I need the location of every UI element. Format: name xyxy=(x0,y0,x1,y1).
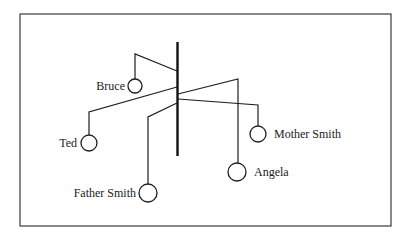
label-ted: Ted xyxy=(59,136,77,150)
circle-angela xyxy=(228,163,246,181)
label-father-smith: Father Smith xyxy=(74,186,136,200)
arm-angela xyxy=(178,79,238,163)
arm-bruce xyxy=(135,54,177,79)
label-mother-smith: Mother Smith xyxy=(274,127,341,141)
member-father-smith: Father Smith xyxy=(74,184,157,202)
member-angela: Angela xyxy=(228,163,289,181)
label-angela: Angela xyxy=(254,165,289,179)
circle-mother-smith xyxy=(250,126,266,142)
arm-father-smith xyxy=(148,103,177,184)
mobile-members: BruceTedFather SmithAngelaMother Smith xyxy=(59,79,341,203)
member-ted: Ted xyxy=(59,135,97,151)
circle-bruce xyxy=(128,79,142,93)
arm-mother-smith xyxy=(178,99,258,126)
member-bruce: Bruce xyxy=(96,79,142,94)
member-mother-smith: Mother Smith xyxy=(250,126,341,142)
circle-father-smith xyxy=(139,184,157,202)
arm-ted xyxy=(89,87,177,135)
label-bruce: Bruce xyxy=(96,79,125,93)
family-mobile-diagram: BruceTedFather SmithAngelaMother Smith xyxy=(0,0,412,238)
circle-ted xyxy=(81,135,97,151)
